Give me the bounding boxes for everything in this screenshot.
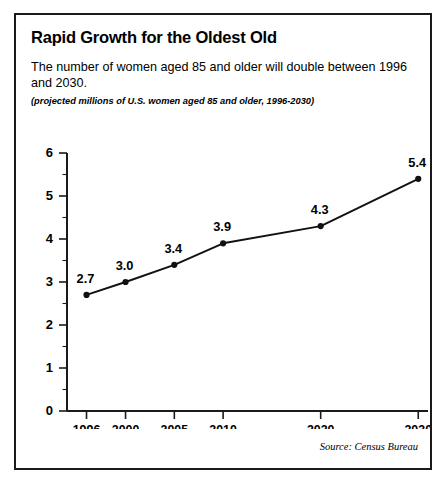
x-tick-label-2020: 2020 — [307, 423, 335, 429]
y-tick-label-5: 5 — [46, 188, 53, 203]
x-tick-label-2030: 2030 — [404, 423, 430, 429]
figure-frame: Rapid Growth for the Oldest Old The numb… — [14, 13, 432, 470]
page-title: Rapid Growth for the Oldest Old — [31, 28, 277, 47]
chart-subtitle: The number of women aged 85 and older wi… — [31, 59, 416, 91]
x-tick-label-2010: 2010 — [209, 423, 237, 429]
data-point-2000 — [122, 279, 128, 285]
data-label-2010: 3.9 — [213, 219, 231, 234]
y-axis-group: 0123456 — [46, 145, 67, 418]
y-tick-label-2: 2 — [46, 317, 53, 332]
line-chart-plot: 0123456 199620002005201020202030 2.73.03… — [16, 119, 430, 429]
x-axis-tick-labels: 199620002005201020202030 — [73, 423, 430, 429]
data-label-2020: 4.3 — [311, 202, 329, 217]
y-tick-label-1: 1 — [46, 360, 53, 375]
data-point-2010 — [220, 240, 226, 246]
data-label-1996: 2.7 — [77, 271, 95, 286]
y-axis-major-ticks — [59, 153, 67, 411]
y-tick-label-0: 0 — [46, 403, 53, 418]
data-point-1996 — [83, 292, 89, 298]
source-caption: Source: Census Bureau — [320, 441, 418, 452]
y-tick-label-6: 6 — [46, 145, 53, 160]
x-axis-group: 199620002005201020202030 — [67, 411, 430, 429]
data-series-line — [87, 179, 419, 295]
data-point-2020 — [318, 223, 324, 229]
x-tick-label-2005: 2005 — [161, 423, 189, 429]
series-group: 2.73.03.43.94.35.4 — [77, 155, 427, 298]
data-label-2000: 3.0 — [116, 258, 134, 273]
x-tick-label-2000: 2000 — [112, 423, 140, 429]
x-axis-major-ticks — [87, 411, 419, 419]
data-point-labels: 2.73.03.43.94.35.4 — [77, 155, 427, 286]
x-tick-label-1996: 1996 — [73, 423, 101, 429]
chart-units-note: (projected millions of U.S. women aged 8… — [31, 96, 421, 106]
y-tick-label-3: 3 — [46, 274, 53, 289]
data-point-2030 — [415, 176, 421, 182]
y-tick-label-4: 4 — [46, 231, 54, 246]
data-label-2005: 3.4 — [164, 241, 183, 256]
y-axis-tick-labels: 0123456 — [46, 145, 54, 418]
data-label-2030: 5.4 — [408, 155, 427, 170]
data-point-2005 — [171, 262, 177, 268]
